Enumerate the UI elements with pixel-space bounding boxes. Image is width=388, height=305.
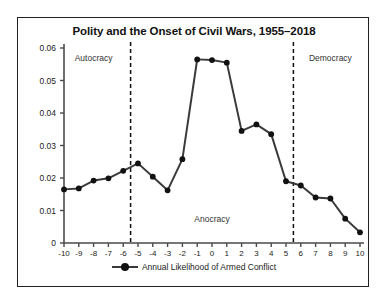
x-axis-tick-label: -10 <box>56 249 72 258</box>
data-point-marker <box>298 183 304 189</box>
region-label-left: Autocracy <box>49 53 139 63</box>
data-point-marker <box>357 229 363 235</box>
data-point-marker <box>76 186 82 192</box>
data-point-marker <box>239 128 245 134</box>
plot-area: 00.010.020.030.040.050.06-10-9-8-7-6-5-4… <box>18 18 370 288</box>
y-axis-tick-label: 0.06 <box>26 43 56 53</box>
x-axis-tick-label: 5 <box>278 249 294 258</box>
data-point-marker <box>224 60 230 66</box>
x-axis-tick-label: 9 <box>337 249 353 258</box>
data-point-marker <box>209 57 215 63</box>
data-point-marker <box>342 216 348 222</box>
chart-legend: Annual Likelihood of Armed Conflict <box>18 261 370 272</box>
chart-frame: Polity and the Onset of Civil Wars, 1955… <box>17 17 369 287</box>
y-axis-tick-label: 0.01 <box>26 206 56 216</box>
x-axis-tick-label: -2 <box>174 249 190 258</box>
data-point-marker <box>106 175 112 181</box>
x-axis-tick-label: 10 <box>352 249 368 258</box>
data-point-marker <box>254 121 260 127</box>
data-point-marker <box>120 168 126 174</box>
data-point-marker <box>194 56 200 62</box>
series-line-annual-likelihood <box>64 59 360 232</box>
data-point-marker <box>313 195 319 201</box>
legend-label: Annual Likelihood of Armed Conflict <box>142 262 276 272</box>
x-axis-tick-label: -1 <box>189 249 205 258</box>
data-point-marker <box>135 160 141 166</box>
data-point-marker <box>283 178 289 184</box>
legend-marker-icon <box>112 262 138 271</box>
data-point-marker <box>328 196 334 202</box>
x-axis-tick-label: -7 <box>100 249 116 258</box>
x-axis-tick-label: -5 <box>130 249 146 258</box>
data-point-marker <box>61 186 67 192</box>
data-point-marker <box>180 156 186 162</box>
y-axis-tick-label: 0.05 <box>26 76 56 86</box>
x-axis-tick-label: -9 <box>71 249 87 258</box>
x-axis-tick-label: 4 <box>263 249 279 258</box>
x-axis-tick-label: -6 <box>115 249 131 258</box>
x-axis-tick-label: 7 <box>308 249 324 258</box>
x-axis-tick-label: 0 <box>204 249 220 258</box>
x-axis-tick-label: -4 <box>145 249 161 258</box>
data-point-marker <box>268 131 274 137</box>
y-axis-tick-label: 0.02 <box>26 173 56 183</box>
x-axis-tick-label: 3 <box>248 249 264 258</box>
data-point-marker <box>165 187 171 193</box>
x-axis-tick-label: -8 <box>86 249 102 258</box>
x-axis-tick-label: 1 <box>219 249 235 258</box>
x-axis-tick-label: 8 <box>322 249 338 258</box>
region-label-right: Democracy <box>285 53 375 63</box>
y-axis-tick-label: 0.03 <box>26 141 56 151</box>
x-axis-tick-label: 6 <box>293 249 309 258</box>
data-point-marker <box>91 178 97 184</box>
y-axis-tick-label: 0 <box>26 238 56 248</box>
data-point-marker <box>150 174 156 180</box>
y-axis-tick-label: 0.04 <box>26 108 56 118</box>
region-label-middle: Anocracy <box>167 214 257 224</box>
x-axis-tick-label: -3 <box>160 249 176 258</box>
x-axis-tick-label: 2 <box>234 249 250 258</box>
